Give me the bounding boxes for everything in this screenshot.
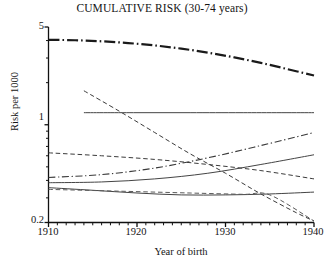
- series-line-4: [49, 153, 315, 179]
- series-line-3: [84, 91, 314, 221]
- plot-area: [0, 0, 324, 263]
- series-line-1: [49, 40, 315, 76]
- data-series-layer: [49, 40, 315, 221]
- x-axis-ticks: [49, 223, 315, 228]
- series-line-7: [49, 188, 315, 195]
- chart-figure: CUMULATIVE RISK (30-74 years) Risk per 1…: [0, 0, 324, 263]
- series-line-6: [49, 155, 315, 183]
